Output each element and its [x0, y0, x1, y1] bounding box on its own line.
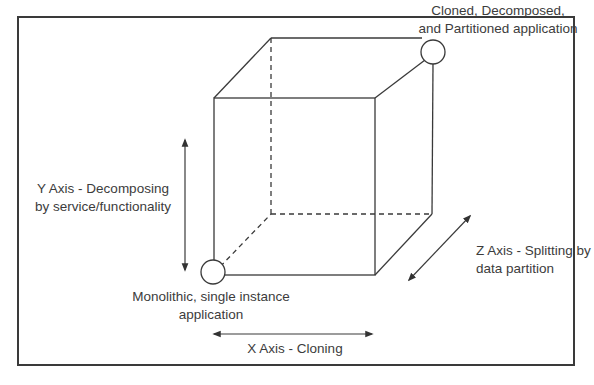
origin-label-line1: Monolithic, single instance	[126, 288, 296, 306]
y-axis-label: Y Axis - Decomposing by service/function…	[28, 180, 178, 216]
z-axis-arrow-icon	[409, 216, 470, 280]
origin-node-icon	[201, 260, 225, 284]
origin-label-line2: application	[126, 306, 296, 324]
z-axis-label: Z Axis - Splitting by data partition	[476, 242, 594, 278]
y-axis-label-line2: by service/functionality	[28, 198, 178, 216]
top-corner-node-icon	[421, 40, 445, 64]
y-axis-label-line1: Y Axis - Decomposing	[28, 180, 178, 198]
top-corner-label-line1: Cloned, Decomposed,	[408, 2, 588, 20]
cube-hidden-edges	[214, 38, 432, 273]
cube-front-face	[214, 98, 375, 275]
x-axis-label: X Axis - Cloning	[240, 340, 350, 358]
top-corner-label: Cloned, Decomposed, and Partitioned appl…	[408, 2, 588, 38]
z-axis-label-line1: Z Axis - Splitting by	[476, 242, 594, 260]
cube	[214, 38, 433, 275]
origin-label: Monolithic, single instance application	[126, 288, 296, 324]
z-axis-label-line2: data partition	[476, 260, 594, 278]
top-corner-label-line2: and Partitioned application	[408, 20, 588, 38]
